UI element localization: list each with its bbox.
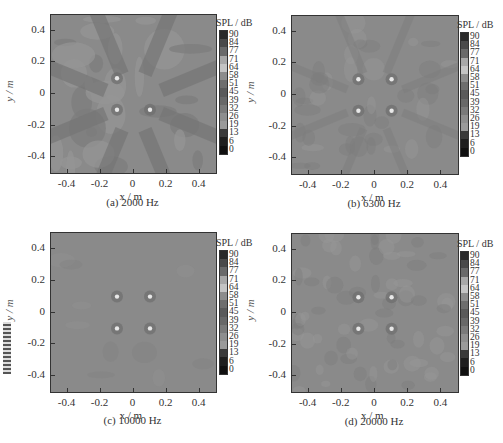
y-axis-label: y / m: [3, 299, 15, 320]
x-tick-label: 0.2: [392, 178, 422, 190]
side-watermark: [3, 322, 11, 374]
x-tick-mark: [440, 170, 441, 174]
y-tick-label: 0: [258, 305, 286, 317]
x-tick-mark: [440, 388, 441, 392]
x-tick-mark: [166, 388, 167, 392]
y-tick-mark: [292, 62, 296, 63]
x-tick-mark: [100, 169, 101, 173]
y-tick-mark: [51, 343, 55, 344]
x-tick-mark: [67, 388, 68, 392]
y-tick-mark: [292, 31, 296, 32]
y-tick-label: -0.4: [17, 149, 45, 161]
y-tick-label: -0.4: [17, 368, 45, 380]
y-tick-label: -0.2: [17, 118, 45, 130]
x-tick-label: -0.2: [326, 178, 356, 190]
x-tick-mark: [133, 169, 134, 173]
x-tick-label: 0: [118, 396, 148, 408]
x-tick-label: 0: [359, 178, 389, 190]
colorbar-title: SPL / dB: [216, 237, 252, 248]
x-tick-label: 0: [118, 177, 148, 189]
y-tick-mark: [51, 125, 55, 126]
y-tick-mark: [51, 312, 55, 313]
y-tick-mark: [292, 280, 296, 281]
subplot-caption: (d) 20000 Hz: [291, 415, 457, 427]
x-tick-mark: [67, 169, 68, 173]
y-tick-label: 0.4: [17, 23, 45, 35]
spl-contour-map: [291, 233, 459, 393]
spl-contour-map: [50, 14, 217, 174]
subplot-caption: (b) 6300 Hz: [291, 197, 457, 209]
x-tick-label: 0.2: [151, 177, 181, 189]
y-tick-label: -0.2: [258, 119, 286, 131]
y-tick-label: 0.4: [258, 242, 286, 254]
colorbar-tick-label: 0: [470, 366, 475, 374]
y-tick-label: 0.4: [17, 241, 45, 253]
y-tick-mark: [51, 30, 55, 31]
x-tick-label: 0.4: [425, 178, 455, 190]
colorbar: [219, 30, 228, 155]
spl-contour-map: [50, 232, 217, 393]
colorbar-title: SPL / dB: [216, 17, 252, 28]
x-tick-mark: [308, 170, 309, 174]
y-tick-mark: [292, 375, 296, 376]
colorbar-title: SPL / dB: [457, 238, 493, 249]
y-tick-mark: [51, 375, 55, 376]
x-tick-label: -0.2: [85, 396, 115, 408]
colorbar: [460, 251, 469, 376]
colorbar-tick-label: 0: [229, 145, 234, 153]
y-tick-label: -0.2: [258, 337, 286, 349]
y-axis-label: y / m: [244, 299, 256, 320]
y-tick-mark: [292, 126, 296, 127]
y-tick-label: 0.2: [258, 273, 286, 285]
colorbar: [219, 250, 228, 375]
y-tick-mark: [292, 249, 296, 250]
spl-contour-map: [291, 15, 459, 175]
x-tick-mark: [341, 388, 342, 392]
x-tick-mark: [341, 170, 342, 174]
y-tick-mark: [292, 312, 296, 313]
x-tick-mark: [374, 170, 375, 174]
y-tick-mark: [292, 94, 296, 95]
x-tick-mark: [374, 388, 375, 392]
x-tick-mark: [199, 388, 200, 392]
x-tick-label: -0.2: [85, 177, 115, 189]
y-tick-label: 0.2: [258, 55, 286, 67]
y-axis-label: y / m: [3, 80, 15, 101]
x-tick-mark: [100, 388, 101, 392]
x-tick-mark: [199, 169, 200, 173]
x-tick-mark: [166, 169, 167, 173]
subplot-caption: (a) 2000 Hz: [50, 196, 215, 208]
x-tick-label: -0.2: [326, 396, 356, 408]
y-tick-label: -0.2: [17, 336, 45, 348]
y-tick-label: -0.4: [258, 368, 286, 380]
colorbar-title: SPL / dB: [457, 19, 493, 30]
x-tick-label: 0.2: [151, 396, 181, 408]
y-tick-label: -0.4: [258, 150, 286, 162]
y-tick-label: 0.4: [258, 24, 286, 36]
y-tick-label: 0: [258, 87, 286, 99]
y-tick-mark: [51, 248, 55, 249]
x-tick-mark: [407, 170, 408, 174]
y-tick-mark: [292, 157, 296, 158]
x-tick-mark: [308, 388, 309, 392]
x-tick-label: 0.4: [184, 396, 214, 408]
x-tick-label: 0.4: [184, 177, 214, 189]
x-tick-label: -0.4: [52, 396, 82, 408]
x-tick-mark: [407, 388, 408, 392]
x-tick-mark: [133, 388, 134, 392]
y-tick-mark: [51, 61, 55, 62]
y-tick-label: 0: [17, 305, 45, 317]
y-tick-mark: [51, 156, 55, 157]
colorbar-tick-label: 0: [470, 147, 475, 155]
x-tick-label: 0.4: [425, 396, 455, 408]
x-tick-label: -0.4: [52, 177, 82, 189]
x-tick-label: 0.2: [392, 396, 422, 408]
y-tick-label: 0.2: [17, 273, 45, 285]
y-tick-mark: [51, 280, 55, 281]
y-tick-mark: [292, 344, 296, 345]
x-tick-label: -0.4: [293, 178, 323, 190]
y-tick-mark: [51, 93, 55, 94]
y-axis-label: y / m: [244, 81, 256, 102]
subplot-caption: (c) 10000 Hz: [50, 414, 215, 426]
x-tick-label: -0.4: [293, 396, 323, 408]
